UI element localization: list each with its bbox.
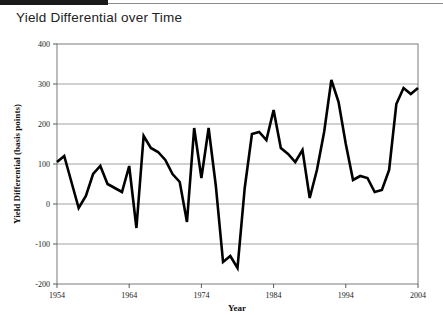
y-tick-label: 400 (38, 40, 50, 49)
y-tick-label: -200 (35, 280, 50, 289)
x-tick-label: 1954 (49, 291, 65, 300)
x-tick-label: 1964 (121, 291, 137, 300)
yield-differential-line-chart: 4003002001000-100-200 195419641974198419… (0, 32, 443, 315)
header-accent-bar (0, 0, 108, 5)
y-tick-label: 100 (38, 160, 50, 169)
x-axis-title: Year (228, 303, 246, 313)
y-tick-label: -100 (35, 240, 50, 249)
header-divider-rule (108, 3, 443, 4)
x-tick-label: 2004 (410, 291, 426, 300)
y-tick-label: 200 (38, 120, 50, 129)
x-axis-ticks: 195419641974198419942004 (49, 284, 426, 300)
x-tick-label: 1984 (266, 291, 282, 300)
y-axis-ticks: 4003002001000-100-200 (35, 40, 57, 289)
grid-lines (57, 84, 418, 244)
page-title: Yield Differential over Time (16, 10, 182, 25)
y-axis-title: Yield Differential (basis points) (12, 104, 22, 224)
x-tick-label: 1994 (338, 291, 354, 300)
y-tick-label: 0 (46, 200, 50, 209)
data-series-line (57, 80, 418, 268)
chart-container: 4003002001000-100-200 195419641974198419… (0, 32, 443, 315)
y-tick-label: 300 (38, 80, 50, 89)
x-tick-label: 1974 (193, 291, 209, 300)
